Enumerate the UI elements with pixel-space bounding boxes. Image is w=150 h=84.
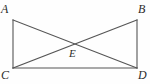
vertex-label-b: B: [138, 3, 145, 15]
vertex-label-d: D: [138, 69, 147, 81]
vertex-label-a: A: [1, 3, 8, 15]
vertex-label-e: E: [69, 47, 76, 59]
geometry-figure: A B C D E: [0, 0, 150, 84]
vertex-label-c: C: [1, 69, 9, 81]
geometry-canvas: [0, 0, 150, 84]
